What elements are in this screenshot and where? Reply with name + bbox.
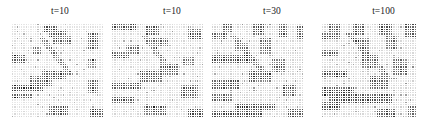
heatmap-cell — [130, 24, 132, 26]
heatmap-cell — [163, 111, 165, 113]
heatmap-cell — [272, 38, 274, 40]
heatmap-cell — [251, 64, 253, 66]
heatmap-cell — [69, 80, 71, 82]
heatmap-cell — [179, 111, 181, 113]
heatmap-cell — [130, 62, 132, 64]
heatmap-cell — [137, 78, 139, 80]
heatmap-cell — [167, 83, 169, 85]
heatmap-cell — [389, 40, 391, 42]
heatmap-cell — [28, 26, 30, 28]
heatmap-cell — [88, 59, 90, 61]
heatmap-cell — [242, 116, 244, 118]
heatmap-cell — [365, 36, 367, 38]
heatmap-cell — [336, 71, 338, 73]
heatmap-cell — [79, 36, 81, 38]
heatmap-cell — [19, 102, 21, 104]
heatmap-cell — [56, 73, 58, 75]
heatmap-cell — [17, 87, 19, 89]
heatmap-cell — [265, 47, 267, 49]
heatmap-cell — [339, 116, 341, 118]
heatmap-cell — [251, 111, 253, 113]
heatmap-cell — [99, 52, 101, 54]
heatmap-cell — [391, 76, 393, 78]
heatmap-cell — [365, 111, 367, 113]
heatmap-cell — [370, 106, 372, 108]
heatmap-cell — [33, 106, 35, 108]
heatmap-cell — [226, 97, 228, 99]
heatmap-cell — [219, 111, 221, 113]
heatmap-cell — [92, 85, 94, 87]
heatmap-cell — [283, 59, 285, 61]
heatmap-cell — [297, 116, 299, 118]
heatmap-cell — [195, 102, 197, 104]
heatmap-cell — [172, 73, 174, 75]
heatmap-cell — [377, 24, 379, 26]
heatmap-cell — [249, 26, 251, 28]
heatmap-cell — [90, 64, 92, 66]
heatmap-cell — [197, 31, 199, 33]
heatmap-cell — [246, 47, 248, 49]
heatmap-cell — [260, 66, 262, 68]
heatmap-cell — [197, 71, 199, 73]
heatmap-cell — [405, 47, 407, 49]
heatmap-cell — [410, 83, 412, 85]
heatmap-cell — [63, 111, 65, 113]
heatmap-cell — [167, 80, 169, 82]
heatmap-cell — [112, 31, 114, 33]
heatmap-cell — [367, 47, 369, 49]
heatmap-cell — [169, 43, 171, 45]
heatmap-cell — [28, 106, 30, 108]
heatmap-cell — [19, 29, 21, 31]
heatmap-cell — [42, 97, 44, 99]
heatmap-cell — [415, 102, 417, 104]
heatmap-cell — [117, 116, 119, 118]
heatmap-cell — [272, 45, 274, 47]
heatmap-cell — [253, 43, 255, 45]
heatmap-cell — [242, 76, 244, 78]
heatmap-cell — [327, 33, 329, 35]
heatmap-cell — [30, 50, 32, 52]
heatmap-cell — [228, 97, 230, 99]
heatmap-cell — [144, 47, 146, 49]
heatmap-cell — [214, 40, 216, 42]
heatmap-cell — [256, 94, 258, 96]
heatmap-cell — [86, 47, 88, 49]
heatmap-cell — [299, 64, 301, 66]
heatmap-cell — [151, 26, 153, 28]
heatmap-cell — [60, 38, 62, 40]
heatmap-cell — [133, 113, 135, 115]
heatmap-cell — [351, 99, 353, 101]
heatmap-cell — [302, 57, 304, 59]
heatmap-cell — [119, 69, 121, 71]
heatmap-cell — [83, 66, 85, 68]
heatmap-cell — [212, 59, 214, 61]
heatmap-cell — [65, 90, 67, 92]
heatmap-cell — [151, 47, 153, 49]
heatmap-cell — [17, 66, 19, 68]
heatmap-cell — [410, 55, 412, 57]
heatmap-cell — [88, 111, 90, 113]
heatmap-cell — [288, 83, 290, 85]
heatmap-cell — [370, 76, 372, 78]
heatmap-cell — [332, 90, 334, 92]
heatmap-cell — [26, 64, 28, 66]
heatmap-cell — [221, 33, 223, 35]
heatmap-cell — [195, 59, 197, 61]
heatmap-cell — [179, 99, 181, 101]
heatmap-cell — [288, 113, 290, 115]
heatmap-cell — [265, 83, 267, 85]
heatmap-cell — [51, 106, 53, 108]
heatmap-cell — [160, 38, 162, 40]
heatmap-cell — [86, 31, 88, 33]
heatmap-cell — [56, 90, 58, 92]
heatmap-cell — [181, 29, 183, 31]
heatmap-cell — [353, 57, 355, 59]
heatmap-cell — [408, 80, 410, 82]
heatmap-cell — [415, 36, 417, 38]
heatmap-cell — [341, 99, 343, 101]
heatmap-cell — [67, 38, 69, 40]
heatmap-cell — [379, 73, 381, 75]
heatmap-cell — [400, 59, 402, 61]
heatmap-cell — [167, 31, 169, 33]
heatmap-cell — [133, 90, 135, 92]
